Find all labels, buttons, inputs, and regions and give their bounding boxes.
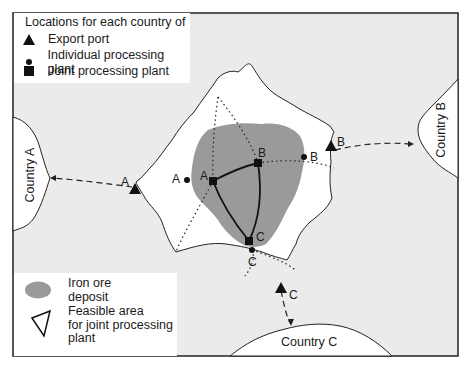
legend-title: Locations for each country of	[25, 15, 186, 29]
country-b-label: Country B	[434, 102, 448, 158]
individual-plant-a	[184, 177, 190, 183]
triangle-icon	[22, 34, 36, 45]
individual-plant-c	[249, 247, 255, 253]
feasible-label-line1: Feasible area	[68, 305, 173, 319]
feasible-label-line3: plant	[68, 332, 173, 346]
iron-ore-label-line2: deposit	[68, 291, 111, 305]
feasible-label-line2: for joint processing	[68, 319, 173, 333]
legend-locations: Locations for each country of Export por…	[14, 13, 190, 83]
legend-areas: Iron ore deposit Feasible area for joint…	[14, 273, 177, 356]
iron-ore-label-line1: Iron ore	[68, 277, 111, 291]
port-b-label: B	[337, 135, 345, 149]
square-icon	[22, 66, 36, 76]
individual-c-label: C	[248, 255, 257, 269]
joint-c-label: C	[256, 230, 265, 244]
joint-b-label: B	[258, 146, 266, 160]
joint-a-label: A	[200, 169, 208, 183]
joint-plant-b	[254, 159, 262, 167]
feasible-area-label: Feasible area for joint processing plant	[68, 305, 173, 346]
legend-label: Joint processing plant	[48, 64, 169, 78]
joint-plant-a	[209, 177, 217, 185]
port-c-label: C	[289, 288, 298, 302]
port-a-label: A	[121, 175, 129, 189]
legend-label: Export port	[48, 32, 109, 46]
joint-plant-c	[245, 237, 253, 245]
country-a-label: Country A	[23, 147, 37, 203]
individual-plant-b	[301, 154, 307, 160]
individual-a-label: A	[172, 172, 180, 186]
country-c-label: Country C	[281, 335, 337, 349]
legend-item-export-port: Export port	[22, 32, 109, 46]
iron-ore-label: Iron ore deposit	[68, 277, 111, 304]
legend-item-joint-plant: Joint processing plant	[22, 64, 169, 78]
individual-b-label: B	[310, 150, 318, 164]
